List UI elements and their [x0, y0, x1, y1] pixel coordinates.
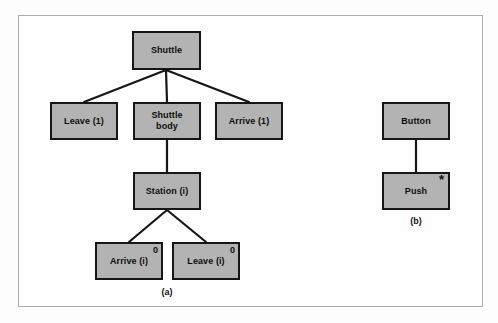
node-shuttle-label: Shuttle [151, 45, 182, 56]
node-shuttle-body[interactable]: Shuttle body [133, 102, 201, 140]
node-station-i-label: Station (i) [146, 186, 189, 197]
edge-station-leavei [167, 210, 206, 242]
caption-a: (a) [137, 287, 197, 297]
node-leave-1[interactable]: Leave (1) [50, 102, 118, 140]
edge-shuttle-leave1 [84, 70, 166, 102]
node-arrive-1-label: Arrive (1) [229, 116, 270, 127]
node-button-label: Button [401, 116, 431, 127]
edge-station-arrivei [129, 210, 167, 242]
cardinality-marker-leave-i: 0 [230, 245, 235, 255]
node-push-label: Push [405, 186, 427, 197]
node-arrive-i-label: Arrive (i) [110, 256, 148, 267]
edge-shuttle-arrive1 [166, 70, 249, 102]
node-leave-1-label: Leave (1) [64, 116, 104, 127]
caption-b: (b) [386, 216, 446, 226]
node-push[interactable]: * Push [382, 172, 450, 210]
node-shuttle[interactable]: Shuttle [132, 31, 201, 70]
star-marker-push: * [439, 174, 444, 186]
figure-page: Shuttle Leave (1) Shuttle body Arrive (1… [0, 0, 498, 323]
node-button[interactable]: Button [382, 102, 450, 140]
node-arrive-1[interactable]: Arrive (1) [215, 102, 283, 140]
node-station-i[interactable]: Station (i) [133, 172, 201, 210]
node-arrive-i[interactable]: 0 Arrive (i) [95, 242, 163, 280]
node-leave-i-label: Leave (i) [187, 256, 224, 267]
node-shuttle-body-label: Shuttle body [151, 110, 182, 132]
cardinality-marker-arrive-i: 0 [153, 245, 158, 255]
node-leave-i[interactable]: 0 Leave (i) [172, 242, 240, 280]
edge-layer [0, 0, 498, 323]
edge-shuttle-body [166, 70, 167, 102]
